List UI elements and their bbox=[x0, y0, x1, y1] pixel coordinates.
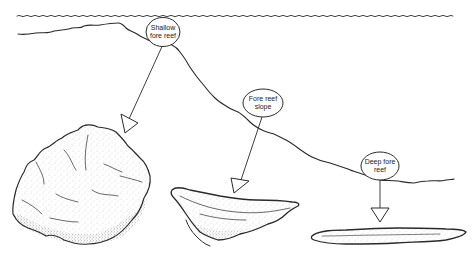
zone-label-shallow-line1: Shallow bbox=[151, 24, 176, 31]
zone-label-deep: Deep fore reef bbox=[361, 152, 399, 180]
zone-label-shallow-line2: fore reef bbox=[150, 32, 176, 39]
zone-label-slope-line2: slope bbox=[255, 103, 272, 111]
zone-label-deep-line2: reef bbox=[374, 166, 386, 173]
coral-plate-bowl bbox=[171, 188, 299, 246]
zone-label-slope-line1: Fore reef bbox=[249, 95, 277, 102]
zone-label-shallow: Shallow fore reef bbox=[146, 18, 180, 47]
zone-label-deep-line1: Deep fore bbox=[365, 158, 396, 166]
coral-massive-mound bbox=[13, 125, 150, 244]
arrow-deep bbox=[371, 180, 389, 222]
arrow-slope bbox=[231, 117, 262, 193]
reef-diagram: Shallow fore reef Fore reef slope Deep f… bbox=[0, 0, 475, 262]
coral-flat-plate bbox=[311, 228, 466, 244]
arrow-shallow bbox=[121, 47, 162, 134]
zone-label-slope: Fore reef slope bbox=[243, 89, 283, 117]
water-surface-line bbox=[17, 15, 453, 16]
